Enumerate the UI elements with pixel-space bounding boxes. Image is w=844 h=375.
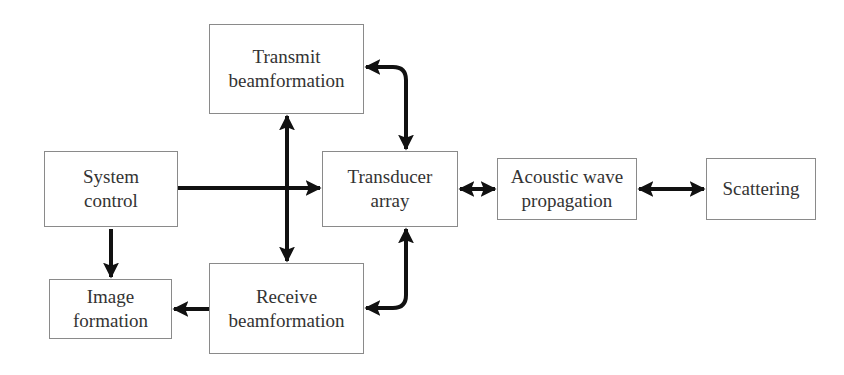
box-label: propagation [522, 189, 613, 213]
box-label: beamformation [228, 69, 344, 93]
arrow-transducer-transmit [366, 67, 406, 149]
box-label: Scattering [722, 177, 799, 201]
box-label: array [370, 189, 409, 213]
box-label: Transmit [253, 45, 321, 69]
box-label: System [83, 165, 139, 189]
image-formation-box: Image formation [49, 279, 172, 339]
arrow-transducer-receive [366, 229, 406, 308]
box-label: Image [87, 285, 134, 309]
receive-beamformation-box: Receive beamformation [209, 263, 364, 354]
scattering-box: Scattering [706, 158, 816, 220]
box-label: beamformation [228, 309, 344, 333]
transducer-array-box: Transducer array [322, 151, 458, 227]
box-label: Transducer [348, 165, 433, 189]
box-label: formation [73, 309, 148, 333]
acoustic-wave-propagation-box: Acoustic wave propagation [497, 158, 637, 220]
box-label: Receive [256, 285, 317, 309]
system-control-box: System control [44, 151, 178, 227]
transmit-beamformation-box: Transmit beamformation [209, 24, 364, 114]
box-label: Acoustic wave [511, 165, 623, 189]
box-label: control [84, 189, 138, 213]
